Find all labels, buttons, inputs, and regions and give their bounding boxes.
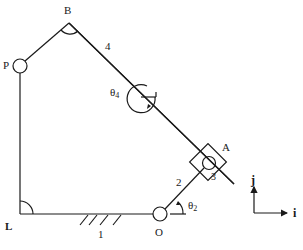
angle-B-icon <box>61 30 78 34</box>
point-P-label: P <box>3 59 9 71</box>
link-PB <box>25 23 69 61</box>
ground-link-label: 1 <box>98 228 104 240</box>
rocker-link-label: 4 <box>105 40 111 52</box>
point-A-label: A <box>222 141 230 153</box>
slider-link-label: 3 <box>211 171 216 182</box>
right-angle-L-icon <box>20 201 33 214</box>
crank-link-label: 2 <box>176 176 182 188</box>
point-L-label: L <box>5 220 12 232</box>
crank-link-2 <box>165 168 204 209</box>
point-B-label: B <box>64 4 71 16</box>
pin-O-icon <box>153 207 167 221</box>
pin-P-icon <box>13 59 27 73</box>
slider-block-3 <box>190 144 227 181</box>
ground-hatch-icon <box>80 215 121 225</box>
theta4-arc-icon <box>127 85 156 113</box>
pin-A-icon <box>203 157 216 170</box>
theta2-label: θ2 <box>188 199 197 213</box>
theta4-label: θ4 <box>110 86 119 100</box>
linkage-diagram: 1 L P B 4 θ4 A 3 2 O θ2 j i <box>0 0 303 250</box>
point-O-label: O <box>155 226 163 238</box>
i-axis-label: i <box>293 206 297 220</box>
j-axis-label: j <box>250 173 255 187</box>
